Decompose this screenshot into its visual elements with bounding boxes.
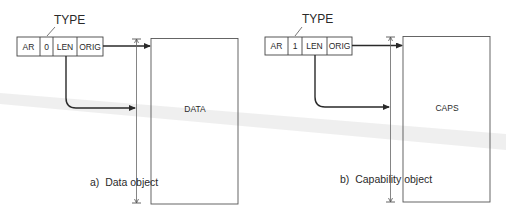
header-cell-len: LEN <box>57 42 74 52</box>
header-cell-ar: AR <box>23 42 35 52</box>
header-cell-type-value: 1 <box>293 41 298 51</box>
diagram-canvas: TYPE AR 0 LEN ORIG DATA a) D <box>0 0 506 219</box>
header-cell-ar: AR <box>271 41 283 51</box>
object-body-label: DATA <box>184 104 206 114</box>
panel-caption: a) Data object <box>90 176 158 188</box>
type-label: TYPE <box>54 13 85 27</box>
type-label: TYPE <box>302 12 333 26</box>
type-leader-line <box>295 27 302 36</box>
header-cell-orig: ORIG <box>79 42 101 52</box>
header-cell-len: LEN <box>306 41 323 51</box>
panel-capability-object: TYPE AR 1 LEN ORIG CAPS b) C <box>265 12 490 202</box>
object-body-label: CAPS <box>435 103 458 113</box>
type-leader-line <box>47 27 55 36</box>
header-cell-orig: ORIG <box>329 41 351 51</box>
header-cell-type-value: 0 <box>44 42 49 52</box>
object-header-record: AR 1 LEN ORIG <box>265 37 352 55</box>
panel-caption: b) Capability object <box>340 173 432 185</box>
object-header-record: AR 0 LEN ORIG <box>17 37 103 56</box>
scan-artifact-band <box>0 93 506 150</box>
len-pointer-arrow <box>315 55 389 107</box>
